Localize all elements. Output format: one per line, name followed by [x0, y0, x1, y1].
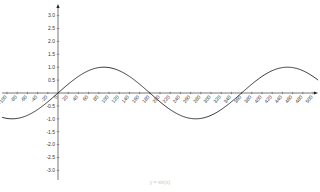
y-tick-label: 3.0 — [48, 12, 55, 18]
y-tick-label: -2.0 — [46, 141, 55, 147]
y-tick-label: -0.5 — [46, 103, 55, 109]
x-tick-label: -100 — [0, 94, 8, 106]
x-tick-label: 220 — [161, 94, 171, 104]
x-tick-label: 320 — [212, 94, 222, 104]
x-tick-label: -80 — [9, 94, 18, 104]
x-tick-label: 20 — [61, 94, 69, 102]
x-tick-label: 160 — [130, 94, 140, 104]
x-tick-label: 120 — [110, 94, 120, 104]
x-tick-label: 40 — [71, 94, 79, 102]
x-axis-arrow-icon — [314, 91, 318, 94]
y-tick-label: 0.5 — [48, 77, 55, 83]
x-tick-label: 80 — [91, 94, 99, 102]
x-tick-label: -40 — [29, 94, 38, 104]
y-tick-label: 2.5 — [48, 25, 55, 31]
y-tick-label: 2.0 — [48, 38, 55, 44]
x-tick-label: 140 — [120, 94, 130, 104]
y-tick-label: -1.5 — [46, 129, 55, 135]
y-tick-label: -2.5 — [46, 154, 55, 160]
x-tick-label: 100 — [100, 94, 110, 104]
y-axis-arrow-icon — [56, 4, 59, 8]
x-tick-label: 440 — [273, 94, 283, 104]
y-tick-label: -1.0 — [46, 116, 55, 122]
x-tick-label: 480 — [294, 94, 304, 104]
y-tick-label: 1.0 — [48, 64, 55, 70]
y-tick-label: 1.5 — [48, 51, 55, 57]
chart-caption: y = sin(x) — [0, 179, 320, 185]
x-tick-label: 60 — [81, 94, 89, 102]
x-tick-label: -60 — [19, 94, 28, 104]
sine-chart: -100-80-60-40-20020406080100120140160180… — [0, 0, 320, 192]
x-tick-label: 300 — [202, 94, 212, 104]
x-tick-label: 420 — [263, 94, 273, 104]
x-tick-label: 500 — [304, 94, 314, 104]
x-tick-label: 180 — [141, 94, 151, 104]
x-tick-label: 360 — [232, 94, 242, 104]
x-tick-label: 260 — [181, 94, 191, 104]
x-tick-label: 280 — [192, 94, 202, 104]
y-tick-label: -3.0 — [46, 167, 55, 173]
x-tick-label: 400 — [253, 94, 263, 104]
x-tick-label: 240 — [171, 94, 181, 104]
x-tick-label: 380 — [243, 94, 253, 104]
x-tick-label: 460 — [283, 94, 293, 104]
